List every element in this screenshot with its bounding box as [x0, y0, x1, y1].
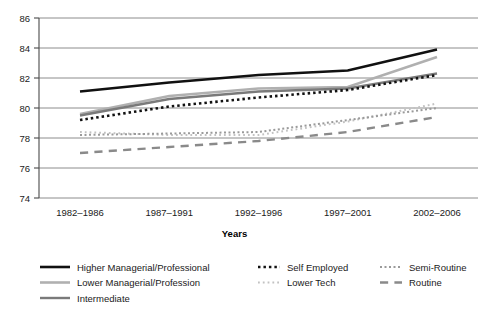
legend-label: Lower Managerial/Profession	[77, 277, 200, 288]
legend-label: Lower Tech	[287, 277, 335, 288]
y-axis-tick-label: 74	[19, 193, 30, 204]
chart-canvas: 747678808284861982–19861987–19911992–199…	[0, 0, 491, 320]
x-axis-tick-label: 2002–2006	[413, 207, 461, 218]
y-axis-tick-label: 78	[19, 133, 30, 144]
legend-label: Semi-Routine	[409, 262, 467, 273]
line-chart: 747678808284861982–19861987–19911992–199…	[0, 0, 491, 320]
series-line-0	[80, 50, 437, 92]
y-axis-tick-label: 76	[19, 163, 30, 174]
legend-label: Intermediate	[77, 293, 130, 304]
y-axis-tick-label: 86	[19, 13, 30, 24]
series-line-2	[80, 74, 437, 116]
x-axis-tick-label: 1982–1986	[56, 207, 104, 218]
x-axis-tick-label: 1997–2001	[324, 207, 372, 218]
y-axis-tick-label: 82	[19, 73, 30, 84]
y-axis-tick-label: 80	[19, 103, 30, 114]
x-axis-title: Years	[222, 228, 247, 239]
legend-label: Self Employed	[287, 262, 348, 273]
x-axis-tick-label: 1987–1991	[145, 207, 193, 218]
series-line-5	[80, 108, 437, 135]
legend-label: Routine	[409, 277, 442, 288]
legend-label: Higher Managerial/Professional	[77, 262, 210, 273]
x-axis-tick-label: 1992–1996	[235, 207, 283, 218]
y-axis-tick-label: 84	[19, 43, 30, 54]
